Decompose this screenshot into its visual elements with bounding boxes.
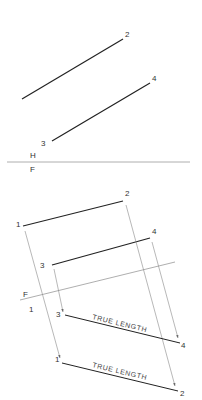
label-h: H <box>30 151 36 160</box>
label-front-2: 2 <box>125 189 130 198</box>
line-3-4-front <box>52 238 150 265</box>
projector-4 <box>152 242 178 338</box>
label-top-3: 3 <box>41 139 46 148</box>
label-aux-2: 2 <box>180 389 185 398</box>
descriptive-geometry-diagram: 2 4 3 H F 1 2 3 4 F 1 3 4 1 2 TRUE LENGT <box>0 0 202 400</box>
top-view: 2 4 3 <box>22 30 157 148</box>
label-front-4: 4 <box>152 227 157 236</box>
projector-3 <box>54 269 63 312</box>
label-f1-1: 1 <box>29 305 34 314</box>
line-3-4-true-length <box>65 315 180 343</box>
label-aux-4: 4 <box>181 341 186 350</box>
fold-line-hf: H F <box>7 151 190 174</box>
line-1-2-top <box>22 39 123 99</box>
label-aux-3: 3 <box>56 310 61 319</box>
true-length-label-1-2: TRUE LENGTH <box>92 361 148 381</box>
label-top-4: 4 <box>152 74 157 83</box>
projector-2 <box>126 205 175 386</box>
label-f: F <box>30 165 35 174</box>
line-3-4-top <box>52 83 150 141</box>
projector-1 <box>25 231 60 358</box>
line-1-2-front <box>23 201 123 226</box>
front-view: 1 2 3 4 <box>16 189 157 270</box>
label-front-3: 3 <box>40 261 45 270</box>
label-top-2: 2 <box>125 30 130 39</box>
label-f1-f: F <box>23 290 28 299</box>
label-aux-1: 1 <box>55 355 60 364</box>
label-front-1: 1 <box>16 220 21 229</box>
